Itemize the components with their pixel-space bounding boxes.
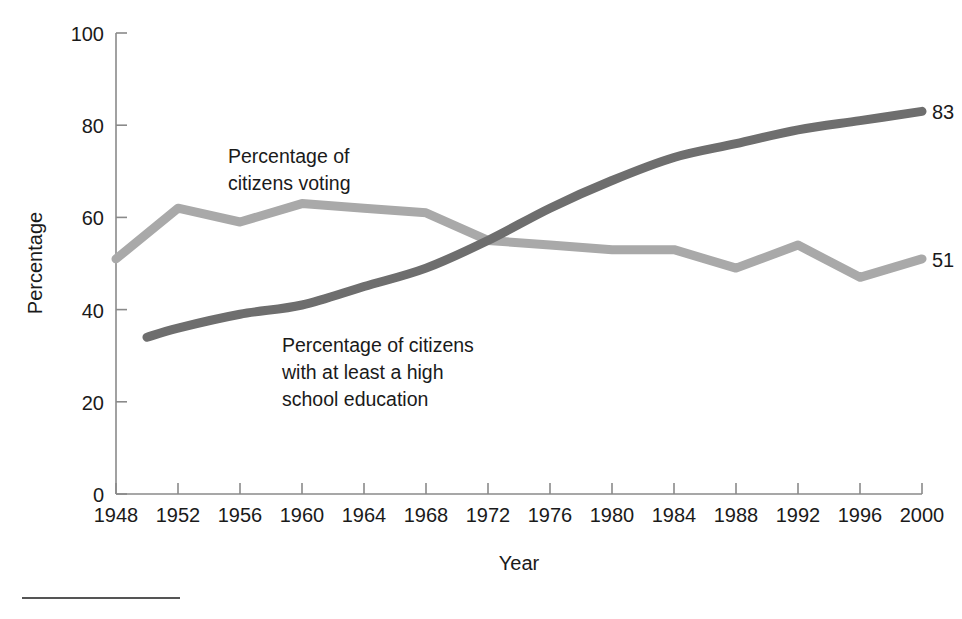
y-tick-label: 80 (82, 115, 104, 137)
y-tick-label: 20 (82, 392, 104, 414)
education-annotation-line-1: Percentage of citizens (282, 334, 474, 356)
education-annotation-line-2: with at least a high (281, 361, 444, 383)
x-axis-title: Year (499, 552, 540, 574)
x-tick-label: 1952 (156, 504, 201, 526)
end-value-label-education: 83 (932, 101, 954, 123)
x-tick-label: 1956 (218, 504, 263, 526)
x-tick-label: 1968 (404, 504, 449, 526)
y-axis-title: Percentage (24, 212, 46, 314)
x-tick-label: 1980 (590, 504, 635, 526)
x-tick-label: 2000 (900, 504, 945, 526)
y-tick-label: 60 (82, 207, 104, 229)
education-annotation-line-3: school education (282, 388, 428, 410)
chart-background (0, 0, 962, 619)
y-tick-label: 40 (82, 300, 104, 322)
end-value-label-voting: 51 (932, 249, 954, 271)
x-tick-label: 1964 (342, 504, 387, 526)
voting-annotation-line-2: citizens voting (228, 172, 350, 194)
x-tick-label: 1984 (652, 504, 697, 526)
y-tick-label: 100 (71, 23, 104, 45)
x-tick-label: 1996 (838, 504, 883, 526)
y-tick-label: 0 (93, 484, 104, 506)
x-tick-label: 1992 (776, 504, 821, 526)
chart-figure: 100 80 60 40 20 0 Percentage 19481952195… (0, 0, 962, 619)
x-tick-label: 1988 (714, 504, 759, 526)
x-tick-label: 1976 (528, 504, 573, 526)
x-tick-label: 1972 (466, 504, 511, 526)
line-chart: 100 80 60 40 20 0 Percentage 19481952195… (0, 0, 962, 619)
x-tick-label: 1960 (280, 504, 325, 526)
voting-annotation-line-1: Percentage of (228, 145, 350, 167)
x-tick-label: 1948 (94, 504, 139, 526)
